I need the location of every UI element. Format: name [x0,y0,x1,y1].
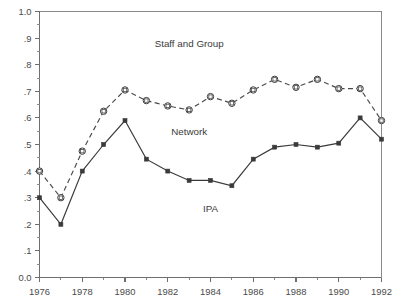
x-tick-label: 1982 [157,286,178,297]
x-tick-label: 1992 [371,286,392,297]
x-tick-label: 1986 [243,286,264,297]
data-point-marker [100,108,106,114]
y-tick-label: .5 [24,139,32,150]
y-tick-label: .7 [24,86,32,97]
data-point-marker [250,87,256,93]
data-point-marker [294,143,298,147]
data-point-marker [380,137,384,141]
data-point-marker [337,141,341,145]
y-tick-label: 0.0 [18,272,31,283]
x-tick-label: 1990 [328,286,349,297]
x-tick-label: 1980 [115,286,136,297]
series-label: Staff and Group [155,38,225,49]
y-tick-label: 1.0 [18,6,31,17]
data-point-marker [166,169,170,173]
data-point-marker [314,76,320,82]
x-tick-label: 1984 [200,286,221,297]
y-tick-label: .9 [24,33,32,44]
data-point-marker [273,145,277,149]
data-point-marker [229,100,235,106]
data-point-marker [165,103,171,109]
y-axis-tick-labels: 0.0.1.2.3.4.5.6.7.8.91.0 [18,6,31,283]
data-point-marker [357,85,363,91]
x-axis-tick-labels: 197619781980198219841986198819901992 [29,286,392,297]
data-point-marker [36,168,42,174]
y-tick-label: .6 [24,112,32,123]
data-point-marker [59,222,63,226]
data-point-marker [58,195,64,201]
series-annotations: Staff and GroupNetworkIPA [155,38,225,214]
chart-container: 0.0.1.2.3.4.5.6.7.8.91.0 197619781980198… [0,0,408,306]
data-point-marker [80,169,84,173]
x-tick-label: 1988 [286,286,307,297]
data-point-marker [358,116,362,120]
data-point-marker [144,157,148,161]
y-tick-label: .4 [24,166,32,177]
data-point-marker [186,107,192,113]
data-point-marker [271,76,277,82]
data-point-marker [230,184,234,188]
data-point-marker [123,119,127,123]
line-chart: 0.0.1.2.3.4.5.6.7.8.91.0 197619781980198… [0,0,408,306]
data-point-marker [38,196,42,200]
x-tick-label: 1978 [72,286,93,297]
y-axis-ticks [35,12,40,278]
data-point-marker [102,143,106,147]
y-tick-label: .2 [24,219,32,230]
y-tick-label: .8 [24,59,32,70]
data-point-marker [122,87,128,93]
y-tick-label: .3 [24,192,32,203]
data-point-marker [293,84,299,90]
data-point-marker [79,148,85,154]
data-point-marker [143,97,149,103]
data-point-marker [207,93,213,99]
y-tick-label: .1 [24,245,32,256]
series-label: Network [171,126,207,137]
data-point-marker [251,157,255,161]
data-point-marker [187,178,191,182]
data-point-marker [378,117,384,123]
data-point-marker [336,85,342,91]
series-label: IPA [203,203,219,214]
x-axis-ticks [40,278,382,283]
data-point-marker [209,178,213,182]
data-point-marker [315,145,319,149]
x-tick-label: 1976 [29,286,50,297]
